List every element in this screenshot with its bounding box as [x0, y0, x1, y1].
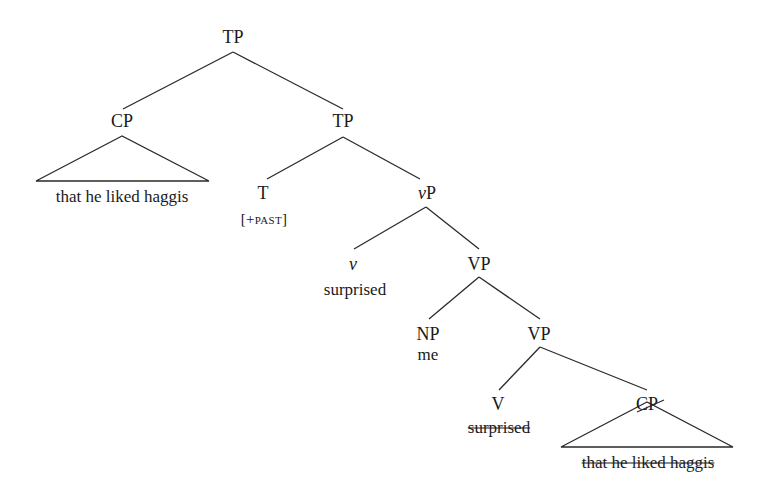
node-t-head: T [258, 184, 269, 202]
edge-tp-cp [123, 52, 233, 109]
little-vp-p: P [426, 183, 436, 203]
node-tp-bar: TP [332, 112, 353, 130]
cp-trace-slash [634, 395, 668, 415]
node-v-lower: V [492, 395, 505, 413]
v-lower-struck-text: surprised [468, 419, 530, 436]
node-vp-upper: VP [467, 255, 490, 273]
cp-subject-triangle [36, 136, 209, 181]
np-object-text: me [418, 346, 439, 363]
edge-tp-vp [343, 137, 420, 179]
cp-subject-text: that he liked haggis [56, 188, 189, 205]
node-np-object: NP [416, 325, 439, 343]
edge-tp-t [267, 137, 343, 179]
feature-open-bracket: [+ [241, 211, 255, 227]
little-v-text: surprised [324, 281, 386, 298]
little-v-italic: v [418, 183, 426, 203]
feature-past: past [255, 211, 282, 227]
edge-vplower-v [499, 347, 540, 390]
node-little-vp: vP [418, 184, 436, 202]
tree-edges [0, 0, 768, 499]
node-little-v: v [349, 255, 357, 273]
edge-vpupper-np [429, 277, 479, 319]
node-cp-subject: CP [111, 112, 133, 130]
edge-tp-tp [233, 52, 343, 109]
node-vp-lower: VP [527, 325, 550, 343]
edge-vplower-cp [540, 347, 647, 390]
node-tp-root: TP [222, 28, 243, 46]
edge-vp-v [354, 207, 426, 249]
feature-close-bracket: ] [282, 211, 287, 227]
node-cp-trace: CP [636, 395, 658, 413]
t-feature-past: [+past] [241, 212, 287, 227]
cp-trace-struck-text: that he liked haggis [582, 454, 715, 471]
edge-vp-vp [426, 207, 479, 249]
edge-vpupper-vplower [479, 277, 540, 319]
